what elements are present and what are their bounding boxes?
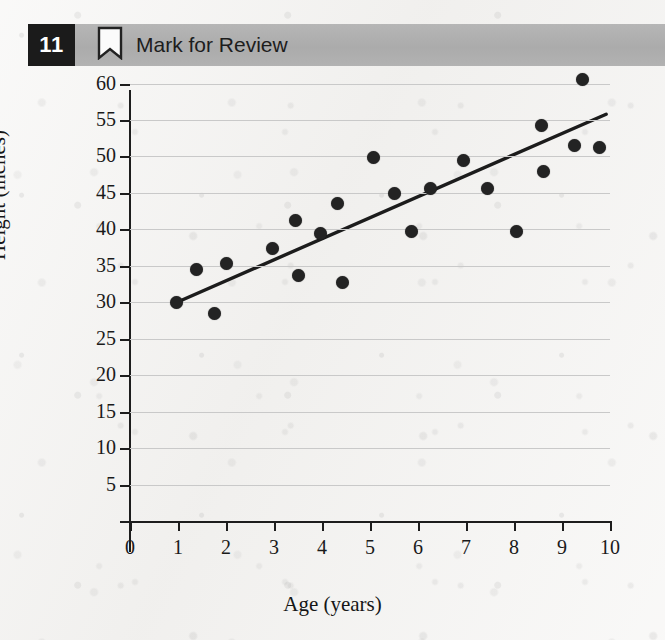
x-axis-tick [514, 521, 516, 531]
y-axis-tick-label: 40 [64, 217, 116, 240]
data-point [510, 225, 523, 238]
x-axis-tick-label: 10 [590, 536, 630, 559]
y-axis-tick [120, 120, 130, 122]
x-axis-title: Age (years) [0, 592, 665, 617]
x-axis-tick [274, 521, 276, 531]
x-axis-tick-label: 1 [158, 536, 198, 559]
x-axis-tick [610, 521, 612, 531]
scatter-plot-figure: Height (inches) Age (years) 510152025303… [0, 70, 665, 640]
data-point [170, 296, 183, 309]
y-axis-tick-label: 25 [64, 327, 116, 350]
gridline [130, 412, 610, 413]
x-axis-tick-label: 4 [302, 536, 342, 559]
data-point [424, 182, 437, 195]
x-axis-tick [226, 521, 228, 531]
data-point [576, 73, 589, 86]
question-number-badge: 11 [28, 24, 75, 66]
y-axis-title: Height (inches) [0, 130, 11, 260]
y-axis-tick-label: 10 [64, 436, 116, 459]
y-axis-tick-label: 50 [64, 144, 116, 167]
gridline [130, 302, 610, 303]
y-axis-tick [120, 339, 130, 341]
mark-for-review-button[interactable]: Mark for Review [97, 26, 288, 64]
gridline [130, 375, 610, 376]
data-point [331, 197, 344, 210]
x-axis-tick-label: 9 [542, 536, 582, 559]
x-axis-tick-label: 8 [494, 536, 534, 559]
x-axis-tick-label: 2 [206, 536, 246, 559]
x-axis-tick [178, 521, 180, 531]
y-axis-tick [120, 266, 130, 268]
data-point [266, 242, 279, 255]
x-axis-tick-label: 3 [254, 536, 294, 559]
y-axis-tick-label: 15 [64, 400, 116, 423]
x-axis-tick [466, 521, 468, 531]
x-axis-tick [562, 521, 564, 531]
x-axis-tick [418, 521, 420, 531]
y-axis-tick [120, 375, 130, 377]
x-axis-tick [322, 521, 324, 531]
x-axis-tick [370, 521, 372, 531]
y-axis-tick [120, 193, 130, 195]
gridline [130, 193, 610, 194]
data-point [593, 141, 606, 154]
y-axis-tick-label: 45 [64, 181, 116, 204]
bookmark-outline-icon [97, 26, 123, 64]
y-axis-tick-label: 55 [64, 108, 116, 131]
y-axis-tick [120, 412, 130, 414]
data-point [568, 139, 581, 152]
data-point [367, 151, 380, 164]
y-axis-tick [120, 156, 130, 158]
y-axis-tick-label: 20 [64, 363, 116, 386]
y-axis-tick-label: 60 [64, 72, 116, 95]
y-axis-tick [120, 302, 130, 304]
question-header-bar: 11 Mark for Review [28, 24, 665, 66]
x-axis-tick [130, 521, 132, 531]
y-axis-tick-label: 5 [64, 473, 116, 496]
gridline [130, 84, 610, 85]
plot-area [130, 99, 610, 551]
y-axis-tick [120, 229, 130, 231]
gridline [130, 485, 610, 486]
gridline [130, 448, 610, 449]
mark-for-review-label: Mark for Review [136, 33, 288, 57]
x-axis-tick-label: 0 [110, 536, 150, 559]
x-axis-tick-label: 6 [398, 536, 438, 559]
x-axis-tick-label: 7 [446, 536, 486, 559]
y-axis-tick [120, 485, 130, 487]
gridline [130, 229, 610, 230]
x-axis-tick-label: 5 [350, 536, 390, 559]
y-axis-tick-label: 30 [64, 290, 116, 313]
y-axis-tick [120, 84, 130, 86]
y-axis-tick [120, 448, 130, 450]
data-point [190, 263, 203, 276]
y-axis-tick-label: 35 [64, 254, 116, 277]
gridline [130, 339, 610, 340]
